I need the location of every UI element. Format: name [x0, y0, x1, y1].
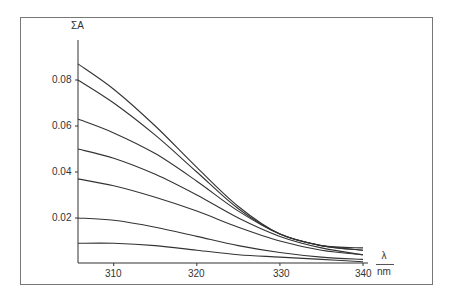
y-tick-label: 0.08 [52, 74, 71, 85]
x-axis-unit: nm [372, 266, 396, 277]
y-axis-label: ΣA [71, 20, 84, 31]
x-tick-label: 310 [105, 268, 122, 279]
x-tick-label: 330 [273, 268, 290, 279]
spectrum-curve [78, 119, 363, 248]
x-tick-label: 320 [188, 268, 205, 279]
y-tick-label: 0.02 [52, 212, 71, 223]
x-axis-label: λ [376, 250, 392, 261]
spectrum-curve [78, 149, 363, 255]
y-tick-label: 0.04 [52, 166, 71, 177]
spectrum-curve [78, 80, 363, 250]
x-axis-label-divider [376, 264, 394, 265]
y-tick-label: 0.06 [52, 120, 71, 131]
spectrum-curve [78, 64, 363, 250]
curves [78, 64, 363, 262]
x-tick-label: 340 [355, 268, 372, 279]
